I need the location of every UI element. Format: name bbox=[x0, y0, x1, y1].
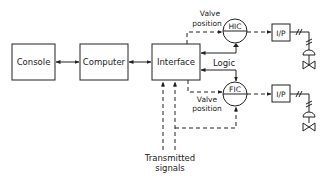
hic-arrow-up-icon bbox=[233, 43, 239, 47]
computer-block: Computer bbox=[80, 44, 128, 80]
hic-label: HIC bbox=[228, 22, 241, 31]
fic-label: FIC bbox=[229, 85, 241, 94]
interface-label: Interface bbox=[157, 57, 195, 67]
fic-controller: FIC bbox=[223, 82, 247, 106]
ip-bottom-label: I/P bbox=[276, 90, 286, 99]
valve-position-top-label-2: position bbox=[192, 19, 222, 28]
control-diagram: Console Computer Interface Valve positio… bbox=[0, 0, 326, 180]
interface-block: Interface bbox=[152, 44, 200, 80]
valve-position-bottom-label-2: position bbox=[192, 104, 222, 113]
valve-position-to-fic bbox=[188, 80, 222, 92]
console-label: Console bbox=[17, 57, 51, 67]
ip-top-block: I/P bbox=[272, 24, 290, 41]
hic-logic-to-interface bbox=[201, 44, 236, 53]
logic-label: Logic bbox=[213, 58, 236, 68]
control-valve-bottom-icon bbox=[303, 112, 315, 131]
valve-position-bottom-label-1: Valve bbox=[197, 95, 218, 104]
control-valve-top-icon bbox=[303, 50, 315, 69]
ip-bottom-block: I/P bbox=[272, 85, 290, 102]
transmitted-label-1: Transmitted bbox=[144, 153, 195, 163]
interface-logic-to-fic bbox=[201, 70, 236, 81]
console-block: Console bbox=[12, 44, 55, 80]
valve-position-to-hic bbox=[187, 32, 222, 44]
computer-label: Computer bbox=[83, 57, 126, 67]
hic-controller: HIC bbox=[223, 19, 247, 43]
valve-position-top-label-1: Valve bbox=[200, 9, 221, 18]
ip-top-label: I/P bbox=[276, 29, 286, 38]
transmitted-label-2: signals bbox=[155, 163, 185, 173]
